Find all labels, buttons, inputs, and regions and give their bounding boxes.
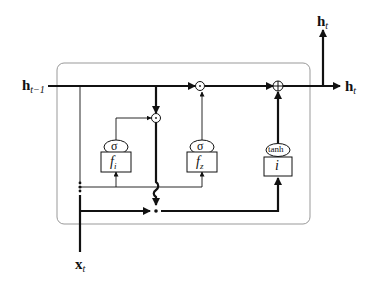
bottom-to-i — [161, 178, 278, 211]
label-h-t-right: ht — [345, 79, 356, 94]
add-node — [273, 81, 283, 91]
multiply-node-2 — [152, 114, 161, 123]
gate-label-fi: fi — [110, 155, 116, 169]
multiply-node-1 — [196, 82, 205, 91]
dot2-down-path — [154, 122, 159, 205]
gate-label-fz: fz — [196, 155, 203, 169]
label-x-t: xt — [75, 257, 85, 272]
sigma-label-fz: σ — [197, 140, 203, 152]
label-h-prev: ht−1 — [22, 78, 45, 93]
gate-label-i: i — [275, 159, 279, 173]
tanh-label: tanh — [268, 145, 284, 154]
label-h-t-up: ht — [317, 14, 328, 29]
cell-diagram — [0, 0, 375, 284]
fi-to-dot2 — [116, 118, 151, 140]
sigma-label-fi: σ — [111, 140, 117, 152]
